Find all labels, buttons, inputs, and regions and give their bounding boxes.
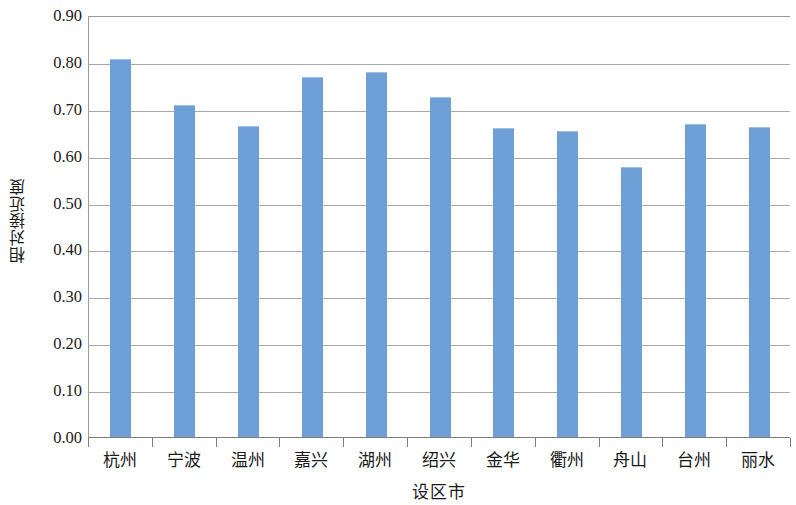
x-axis-tick-label: 绍兴 xyxy=(422,450,456,471)
bar xyxy=(685,124,706,437)
x-axis-tick xyxy=(726,438,727,447)
y-axis-tick-label: 0.70 xyxy=(36,102,82,119)
bar xyxy=(110,59,131,437)
y-axis-tick-label: 0.60 xyxy=(36,148,82,165)
x-axis-tick xyxy=(343,438,344,447)
bar xyxy=(366,72,387,437)
y-axis-tick-labels: 0.000.100.200.300.400.500.600.700.800.90 xyxy=(36,0,82,460)
x-axis-tick-label: 丽水 xyxy=(741,450,775,471)
x-axis-tick-label: 金华 xyxy=(486,450,520,471)
bar xyxy=(302,77,323,437)
y-axis-tick-label: 0.50 xyxy=(36,195,82,212)
bar xyxy=(493,128,514,437)
x-axis-tick xyxy=(152,438,153,447)
x-axis-tick xyxy=(88,438,89,447)
y-axis-tick-label: 0.90 xyxy=(36,8,82,25)
x-axis-tick-labels: 杭州宁波温州嘉兴湖州绍兴金华衢州舟山台州丽水 xyxy=(88,450,790,480)
bar xyxy=(174,105,195,438)
x-axis-tick xyxy=(471,438,472,447)
y-axis-tick-label: 0.30 xyxy=(36,289,82,306)
x-axis-tick-label: 温州 xyxy=(231,450,265,471)
x-axis-tick-label: 衢州 xyxy=(550,450,584,471)
x-axis-tick xyxy=(662,438,663,447)
y-axis-tick-label: 0.00 xyxy=(36,430,82,447)
y-axis-tick-label: 0.80 xyxy=(36,55,82,72)
bar xyxy=(238,126,259,437)
y-axis-title-text: 相对接近度 xyxy=(7,178,31,263)
plot-area xyxy=(88,16,790,438)
x-axis-tick-label: 宁波 xyxy=(167,450,201,471)
x-axis-tick xyxy=(407,438,408,447)
bar-chart: 相对接近度 0.000.100.200.300.400.500.600.700.… xyxy=(0,0,796,505)
bar xyxy=(557,131,578,437)
x-axis-tick-label: 台州 xyxy=(677,450,711,471)
x-axis-tick-label: 杭州 xyxy=(103,450,137,471)
x-axis-tick xyxy=(216,438,217,447)
y-axis-tick-label: 0.40 xyxy=(36,242,82,259)
x-axis-tick-label: 嘉兴 xyxy=(294,450,328,471)
x-axis-tick xyxy=(279,438,280,447)
bar xyxy=(749,127,770,437)
bar xyxy=(430,97,451,437)
x-axis-title: 设区市 xyxy=(88,478,790,503)
y-axis-tick-label: 0.10 xyxy=(36,383,82,400)
x-axis-tick xyxy=(599,438,600,447)
x-axis-tick xyxy=(790,438,791,447)
bar xyxy=(621,167,642,437)
x-axis-tick-label: 湖州 xyxy=(358,450,392,471)
y-axis-tick-label: 0.20 xyxy=(36,336,82,353)
x-axis-tick xyxy=(535,438,536,447)
x-axis-tick-label: 舟山 xyxy=(613,450,647,471)
x-axis-ticks xyxy=(88,438,790,447)
y-axis-title: 相对接近度 xyxy=(2,0,36,440)
bars-layer xyxy=(89,17,790,437)
